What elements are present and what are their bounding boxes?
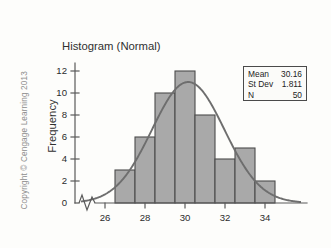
histogram-figure: Copyright © Cengage Learning 2013 Histog… <box>0 0 331 248</box>
x-tick-label: 32 <box>210 212 240 223</box>
y-tick-label: 12 <box>41 65 67 76</box>
stat-value-n: 50 <box>293 90 302 100</box>
y-tick-label: 2 <box>41 175 67 186</box>
x-tick-label: 30 <box>170 212 200 223</box>
histogram-bar <box>155 93 175 203</box>
histogram-bar <box>175 71 195 203</box>
x-tick-label: 34 <box>250 212 280 223</box>
y-tick-label: 4 <box>41 153 67 164</box>
stat-row-mean: Mean 30.16 <box>248 69 302 79</box>
stat-value-mean: 30.16 <box>281 69 302 79</box>
plot-area <box>0 0 331 248</box>
stat-label-mean: Mean <box>248 69 269 79</box>
stat-row-n: N 50 <box>248 90 302 100</box>
y-tick-label: 10 <box>41 87 67 98</box>
y-tick-label: 0 <box>41 197 67 208</box>
y-tick-label: 6 <box>41 131 67 142</box>
axis-break-symbol <box>79 195 95 210</box>
histogram-bar <box>195 115 215 203</box>
stat-label-n: N <box>248 90 254 100</box>
x-tick-label: 28 <box>130 212 160 223</box>
stat-row-stdev: St Dev 1.811 <box>248 79 302 89</box>
x-tick-label: 26 <box>90 212 120 223</box>
statistics-box: Mean 30.16 St Dev 1.811 N 50 <box>243 66 307 101</box>
histogram-bar <box>115 170 135 203</box>
histogram-bar <box>135 137 155 203</box>
stat-value-stdev: 1.811 <box>282 79 302 89</box>
y-tick-label: 8 <box>41 109 67 120</box>
histogram-bar <box>215 159 235 203</box>
stat-label-stdev: St Dev <box>248 79 273 89</box>
